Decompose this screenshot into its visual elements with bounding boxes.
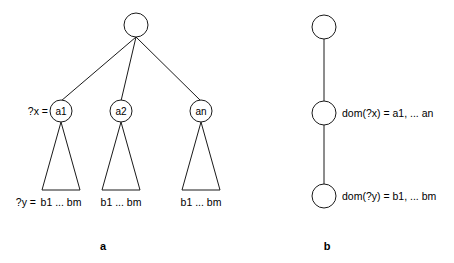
variable-x-label: ?x =: [28, 105, 48, 117]
edge-root-to-an: [136, 37, 201, 101]
child-node-a2-label: a2: [115, 106, 127, 117]
chain-node-top-circle[interactable]: [312, 15, 336, 39]
tree-diagram-svg: a1 a2 an ?x = b1 ... bm b1 ... bm b1 ...…: [0, 0, 454, 263]
edge-root-to-a1: [61, 37, 136, 101]
panel-b-caption: b: [324, 240, 331, 252]
subtree-triangle-3: [182, 122, 220, 190]
panel-a-caption: a: [100, 240, 107, 252]
figure-container: a1 a2 an ?x = b1 ... bm b1 ... bm b1 ...…: [0, 0, 454, 263]
edge-root-to-a2: [121, 37, 136, 101]
subtree-leaf-label-2: b1 ... bm: [101, 196, 142, 208]
subtree-leaf-label-3: b1 ... bm: [181, 196, 222, 208]
subtree-triangle-2: [102, 122, 140, 190]
panel-a-group: a1 a2 an ?x = b1 ... bm b1 ... bm b1 ...…: [16, 13, 222, 252]
subtree-leaf-label-1: b1 ... bm: [41, 196, 82, 208]
chain-node-middle-circle[interactable]: [312, 101, 336, 125]
subtree-triangle-1: [42, 122, 80, 190]
child-node-an-label: an: [195, 106, 206, 117]
panel-b-group: dom(?x) = a1, ... an dom(?y) = b1, ... b…: [312, 15, 436, 252]
chain-node-middle-annotation: dom(?x) = a1, ... an: [342, 107, 433, 119]
root-node-circle[interactable]: [124, 13, 148, 37]
child-node-a1-label: a1: [55, 106, 67, 117]
chain-node-bottom-circle[interactable]: [312, 184, 336, 208]
variable-y-label: ?y =: [16, 196, 36, 208]
chain-node-bottom-annotation: dom(?y) = b1, ... bm: [342, 190, 436, 202]
